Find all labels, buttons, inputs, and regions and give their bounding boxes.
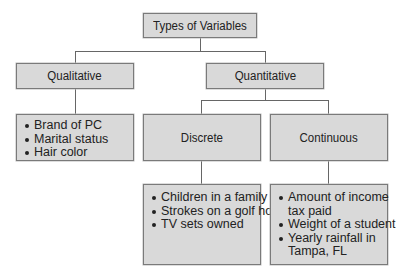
node-discrete: Discrete	[143, 114, 261, 161]
list-item: Hair color	[25, 146, 133, 160]
connector-quantitative-down	[265, 88, 266, 100]
continuous-examples: Amount of income tax paid Weight of a st…	[270, 184, 388, 265]
connector-to-quantitative	[265, 51, 266, 63]
list-item: TV sets owned	[152, 218, 260, 232]
list-item: Marital status	[25, 133, 133, 147]
connector-root-horizontal	[75, 51, 266, 52]
node-label: Discrete	[181, 131, 223, 145]
line: Tampa, FL	[288, 244, 347, 258]
node-types-of-variables: Types of Variables	[143, 13, 257, 38]
example-list: Brand of PC Marital status Hair color	[17, 115, 133, 160]
node-continuous: Continuous	[270, 114, 388, 161]
connector-to-continuous	[328, 100, 329, 114]
connector-qualitative-to-examples	[75, 88, 76, 114]
node-label: Types of Variables	[153, 19, 247, 33]
list-item: Children in a family	[152, 191, 260, 205]
node-quantitative: Quantitative	[206, 63, 324, 89]
connector-continuous-to-examples	[328, 160, 329, 184]
connector-discrete-to-examples	[201, 160, 202, 184]
discrete-examples: Children in a family Strokes on a golf h…	[143, 184, 261, 265]
node-label: Continuous	[300, 131, 358, 145]
line: Yearly rainfall in	[288, 231, 376, 245]
example-list: Children in a family Strokes on a golf h…	[144, 185, 260, 232]
connector-to-discrete	[201, 100, 202, 114]
list-item: Weight of a student	[279, 218, 387, 232]
list-item: Amount of income tax paid	[279, 191, 387, 218]
connector-quantitative-horizontal	[201, 100, 329, 101]
node-label: Quantitative	[234, 69, 295, 83]
line: tax paid	[288, 204, 332, 218]
list-item: Strokes on a golf hole	[152, 205, 260, 219]
qualitative-examples: Brand of PC Marital status Hair color	[16, 114, 134, 161]
line: Amount of income	[288, 190, 389, 204]
node-qualitative: Qualitative	[16, 63, 134, 89]
connector-to-qualitative	[75, 51, 76, 63]
list-item: Brand of PC	[25, 119, 133, 133]
node-label: Qualitative	[48, 69, 102, 83]
example-list: Amount of income tax paid Weight of a st…	[271, 185, 387, 259]
connector-root-down	[200, 37, 201, 51]
list-item: Yearly rainfall in Tampa, FL	[279, 232, 387, 259]
